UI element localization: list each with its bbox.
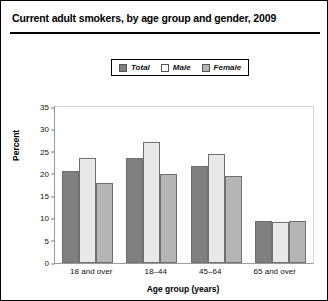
x-tick-label: 18–44 xyxy=(145,267,167,276)
x-tick-label: 18 and over xyxy=(70,267,112,276)
x-axis-title: Age group (years) xyxy=(54,284,312,294)
y-tick-label: 10 xyxy=(40,214,55,223)
y-tick-label: 30 xyxy=(40,125,55,134)
y-tick-label: 25 xyxy=(40,147,55,156)
legend-swatch-total xyxy=(119,64,127,72)
y-tick-label: 20 xyxy=(40,169,55,178)
x-axis-ticks: 18 and over18–4445–6465 and over xyxy=(54,267,312,276)
y-axis-title: Percent xyxy=(11,130,21,161)
bar-group xyxy=(191,107,242,263)
title-divider xyxy=(10,32,320,34)
bar-group xyxy=(255,107,306,263)
y-tick-label: 15 xyxy=(40,192,55,201)
bar-group xyxy=(62,107,113,263)
chart-legend: Total Male Female xyxy=(111,59,249,76)
bar-group xyxy=(126,107,177,263)
legend-label-male: Male xyxy=(173,63,191,72)
chart-title: Current adult smokers, by age group and … xyxy=(12,12,312,24)
bar-male xyxy=(79,158,96,263)
x-tick-label: 65 and over xyxy=(254,267,296,276)
plot-area: 05101520253035 xyxy=(54,106,314,264)
legend-item-male: Male xyxy=(161,63,191,72)
bar-total xyxy=(62,171,79,263)
legend-label-total: Total xyxy=(131,63,150,72)
bar-female xyxy=(96,183,113,263)
bar-total xyxy=(126,158,143,263)
legend-item-total: Total xyxy=(119,63,150,72)
bar-male xyxy=(208,154,225,263)
bar-female xyxy=(160,174,177,263)
bar-total xyxy=(255,221,272,263)
bar-male xyxy=(272,222,289,263)
chart-figure: Current adult smokers, by age group and … xyxy=(0,0,328,301)
legend-item-female: Female xyxy=(202,63,242,72)
bar-total xyxy=(191,166,208,263)
bar-groups xyxy=(55,107,313,263)
bar-male xyxy=(143,142,160,263)
y-tick-label: 5 xyxy=(45,236,55,245)
y-tick-label: 35 xyxy=(40,103,55,112)
legend-swatch-male xyxy=(161,64,169,72)
legend-swatch-female xyxy=(202,64,210,72)
x-tick-label: 45–64 xyxy=(199,267,221,276)
bar-female xyxy=(289,221,306,263)
legend-label-female: Female xyxy=(214,63,242,72)
bar-female xyxy=(225,176,242,263)
